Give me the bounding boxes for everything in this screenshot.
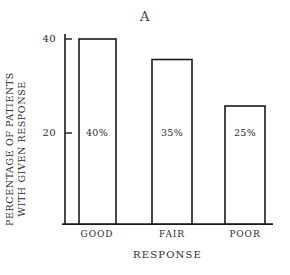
x-category-label-good: GOOD xyxy=(67,229,127,239)
bar-value-label-fair: 35% xyxy=(149,127,195,138)
bar-value-label-poor: 25% xyxy=(222,127,268,138)
x-axis-label: RESPONSE xyxy=(60,249,275,260)
x-category-label-poor: POOR xyxy=(215,229,275,239)
bar-value-label-good: 40% xyxy=(74,127,120,138)
bar-chart-figure: A PERCENTAGE OF PATIENTS WITH GIVEN RESP… xyxy=(0,0,290,275)
bar-fair xyxy=(152,60,192,225)
x-category-label-fair: FAIR xyxy=(142,229,202,239)
bar-poor xyxy=(225,106,265,224)
